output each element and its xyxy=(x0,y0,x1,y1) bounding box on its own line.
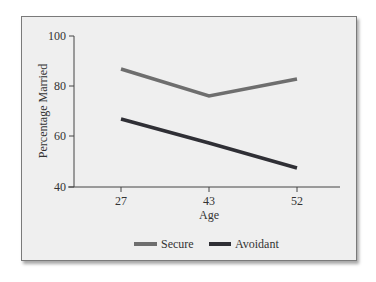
y-tick-label: 60 xyxy=(54,129,66,143)
series-avoidant-line xyxy=(121,119,297,168)
legend-label-secure: Secure xyxy=(161,237,194,251)
legend-label-avoidant: Avoidant xyxy=(235,237,279,251)
legend: Secure Avoidant xyxy=(134,237,279,251)
line-chart: 100 80 60 40 27 43 52 Age Percentage Mar… xyxy=(0,0,376,282)
legend-swatch-secure xyxy=(134,242,157,246)
y-ticks: 100 80 60 40 xyxy=(48,29,74,194)
y-axis-label: Percentage Married xyxy=(36,64,50,158)
x-tick-label: 52 xyxy=(291,194,303,208)
x-tick-label: 27 xyxy=(115,194,127,208)
y-tick-label: 40 xyxy=(54,180,66,194)
x-ticks: 27 43 52 xyxy=(115,187,303,208)
x-tick-label: 43 xyxy=(203,194,215,208)
series-secure-line xyxy=(121,69,297,96)
x-axis-label: Age xyxy=(199,208,219,222)
y-tick-label: 100 xyxy=(48,29,66,43)
legend-swatch-avoidant xyxy=(209,242,231,246)
y-tick-label: 80 xyxy=(54,79,66,93)
